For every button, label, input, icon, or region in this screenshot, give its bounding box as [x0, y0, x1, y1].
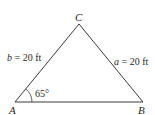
angle-arc-a: [26, 89, 32, 102]
angle-a-label: 65°: [35, 88, 49, 99]
side-b-value: = 20 ft: [12, 52, 41, 63]
side-a-value: = 20 ft: [119, 56, 148, 67]
side-b-label: b = 20 ft: [7, 52, 41, 63]
triangle-svg: C A B b = 20 ft a = 20 ft 65°: [0, 0, 155, 115]
side-a-label: a = 20 ft: [114, 56, 148, 67]
vertex-label-c: C: [75, 11, 83, 23]
triangle-diagram: C A B b = 20 ft a = 20 ft 65°: [0, 0, 155, 115]
vertex-label-a: A: [8, 104, 16, 115]
vertex-label-b: B: [138, 104, 145, 115]
